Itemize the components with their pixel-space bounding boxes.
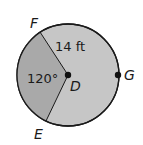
radius-length-label: 14 ft [55,39,85,54]
label-d: D [70,78,81,94]
point-g [115,72,121,78]
label-g: G [124,67,135,83]
circle-diagram: F E G D 14 ft 120° [0,0,143,145]
label-e: E [34,126,43,142]
central-angle-label: 120° [27,71,58,86]
label-f: F [30,15,39,31]
